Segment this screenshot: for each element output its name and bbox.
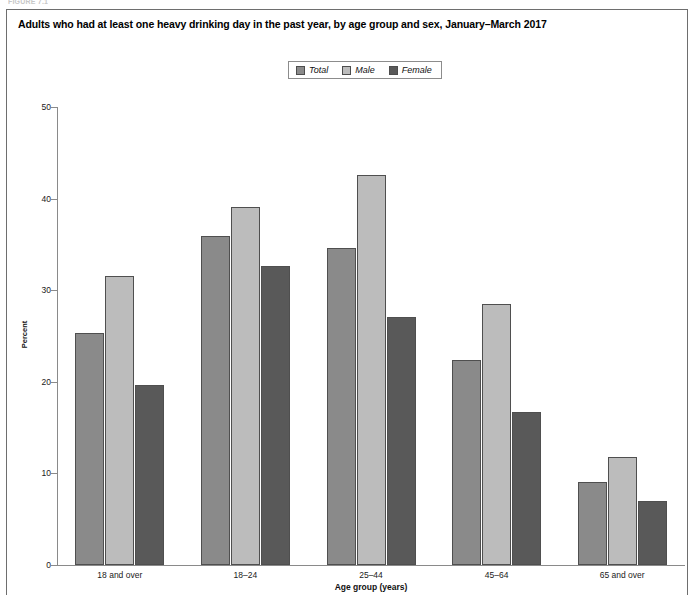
figure-number-label: FIGURE 7.1 <box>8 0 48 7</box>
legend-item-male: Male <box>342 65 375 75</box>
legend-label: Total <box>309 65 328 75</box>
figure-frame <box>6 9 688 595</box>
legend-swatch-icon <box>296 66 305 75</box>
legend-label: Male <box>355 65 375 75</box>
legend-swatch-icon <box>389 66 398 75</box>
legend-label: Female <box>402 65 432 75</box>
chart-title: Adults who had at least one heavy drinki… <box>18 18 547 30</box>
legend-item-total: Total <box>296 65 328 75</box>
chart-legend: TotalMaleFemale <box>288 61 442 79</box>
legend-item-female: Female <box>389 65 432 75</box>
legend-swatch-icon <box>342 66 351 75</box>
